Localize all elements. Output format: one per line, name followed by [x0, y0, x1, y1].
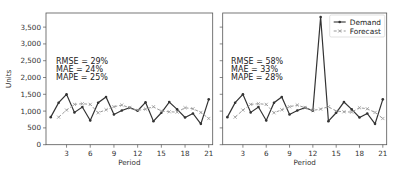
x-tick-label: 18: [355, 149, 365, 158]
data-point-dot: [350, 108, 353, 111]
data-point-dot: [207, 98, 210, 101]
data-point-dot: [152, 120, 155, 123]
x-tick-label: 18: [180, 149, 190, 158]
data-point-dot: [65, 93, 68, 96]
data-point-dot: [343, 101, 346, 104]
data-point-dot: [121, 109, 124, 112]
data-point-dot: [249, 111, 252, 114]
x-tick-label: 6: [88, 149, 93, 158]
x-tick-label: 9: [287, 149, 292, 158]
data-point-dot: [296, 109, 299, 112]
data-point-dot: [97, 101, 100, 104]
data-point-dot: [374, 123, 377, 126]
data-point-dot: [105, 96, 108, 99]
data-point-dot: [57, 101, 60, 104]
chart-panel-1: 05001,0001,5002,0002,5003,0003,500369121…: [4, 13, 213, 167]
data-point-dot: [226, 116, 229, 119]
metric-annotation: MAPE = 28%: [231, 73, 283, 82]
legend-demand-marker-icon: [338, 21, 341, 24]
data-point-dot: [200, 123, 203, 126]
data-point-dot: [89, 119, 92, 122]
metric-annotation: MAPE = 25%: [56, 73, 108, 82]
y-tick-label: 1,000: [20, 107, 41, 116]
x-axis-label: Period: [293, 158, 315, 167]
data-point-dot: [265, 119, 268, 122]
chart-panel-2: 36912151821PeriodRMSE = 58%MAE = 33%MAPE…: [220, 13, 388, 167]
data-point-dot: [234, 101, 237, 104]
x-tick-label: 3: [241, 149, 246, 158]
y-axis-label: Units: [4, 69, 13, 88]
data-point-dot: [192, 112, 195, 115]
legend: DemandForecast: [330, 15, 385, 37]
y-tick-label: 0: [36, 140, 41, 149]
data-point-dot: [358, 116, 361, 119]
data-point-dot: [168, 101, 171, 104]
x-tick-label: 21: [378, 149, 387, 158]
x-tick-label: 12: [308, 149, 317, 158]
y-tick-label: 2,000: [20, 73, 41, 82]
data-point-dot: [327, 120, 330, 123]
x-tick-label: 21: [204, 149, 213, 158]
y-tick-label: 3,000: [20, 39, 41, 48]
y-tick-label: 1,500: [20, 90, 41, 99]
legend-forecast-label: Forecast: [350, 27, 381, 36]
data-point-dot: [184, 116, 187, 119]
data-point-dot: [81, 106, 84, 109]
x-tick-label: 12: [133, 149, 142, 158]
data-point-dot: [273, 101, 276, 104]
x-tick-label: 3: [64, 149, 69, 158]
x-tick-label: 15: [157, 149, 166, 158]
data-point-dot: [49, 116, 52, 119]
x-tick-label: 9: [112, 149, 117, 158]
x-tick-label: 15: [332, 149, 341, 158]
data-point-dot: [73, 111, 76, 114]
data-point-dot: [113, 113, 116, 116]
data-point-dot: [366, 112, 369, 115]
data-point-dot: [176, 108, 179, 111]
chart-figure: 05001,0001,5002,0002,5003,0003,500369121…: [0, 0, 406, 174]
data-point-dot: [319, 16, 322, 19]
chart-canvas: 05001,0001,5002,0002,5003,0003,500369121…: [0, 0, 406, 174]
data-point-dot: [242, 93, 245, 96]
x-axis-label: Period: [118, 158, 140, 167]
data-point-dot: [144, 101, 147, 104]
data-point-dot: [382, 98, 385, 101]
y-tick-label: 2,500: [20, 56, 41, 65]
data-point-dot: [280, 96, 283, 99]
data-point-dot: [288, 113, 291, 116]
y-tick-label: 500: [27, 123, 41, 132]
data-point-dot: [257, 106, 260, 109]
legend-demand-label: Demand: [350, 18, 382, 27]
y-tick-label: 3,500: [20, 23, 41, 32]
x-tick-label: 6: [264, 149, 269, 158]
